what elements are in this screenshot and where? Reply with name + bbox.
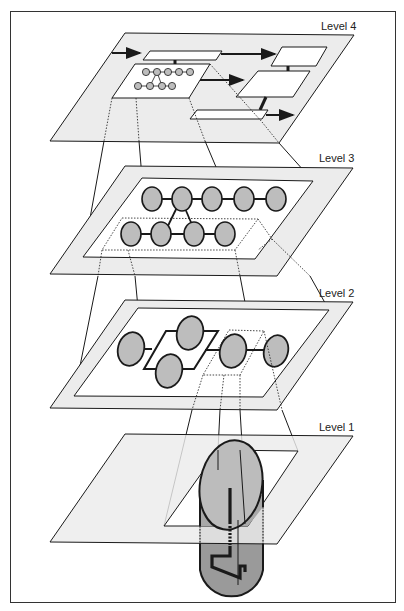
level-4-label: Level 4 [321,20,356,32]
level-1-plane [50,434,353,596]
level-2-plane [50,300,353,410]
level-1-label: Level 1 [319,421,354,433]
level-3-label: Level 3 [319,152,354,164]
level-2-label: Level 2 [319,287,354,299]
level-4-plane [50,33,354,143]
layered-diagram: Level 4 [0,0,404,611]
level-3-plane [50,166,353,276]
